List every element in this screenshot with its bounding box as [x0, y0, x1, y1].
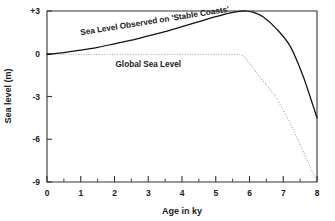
- y-tick-label: -6: [32, 134, 40, 144]
- sea-level-chart: +30-3-6-9 012345678 Sea Level Observed o…: [0, 0, 335, 221]
- y-tick-label: -9: [32, 177, 40, 187]
- x-axis-title: Age in ky: [162, 206, 202, 216]
- y-tick-label: +3: [30, 6, 40, 16]
- x-tick-label: 5: [213, 188, 218, 198]
- x-tick-label: 0: [45, 188, 50, 198]
- x-tick-label: 2: [112, 188, 117, 198]
- y-tick-label: -3: [32, 92, 40, 102]
- x-tick-label: 1: [78, 188, 83, 198]
- x-tick-label: 6: [247, 188, 252, 198]
- y-tick-label: 0: [35, 49, 40, 59]
- y-axis-title: Sea level (m): [3, 68, 13, 123]
- annotation-global-label: Global Sea Level: [115, 60, 181, 69]
- x-tick-label: 7: [281, 188, 286, 198]
- x-tick-label: 3: [146, 188, 151, 198]
- x-tick-label: 4: [180, 188, 185, 198]
- x-tick-label: 8: [315, 188, 320, 198]
- chart-page: +30-3-6-9 012345678 Sea Level Observed o…: [0, 0, 335, 221]
